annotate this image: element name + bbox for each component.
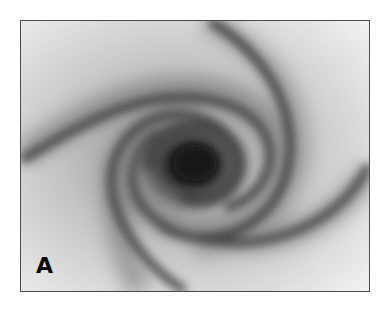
panel-label: A [36,255,53,277]
figure-panel: A [20,20,370,292]
print-grain-overlay [21,21,369,291]
spiral-galaxy-image [21,21,369,291]
